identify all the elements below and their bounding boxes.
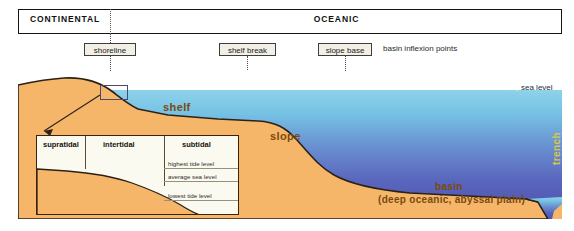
inset-divider-1 bbox=[85, 136, 86, 169]
tidal-zone-inset-panel: supratidal intertidal subtidal highest t… bbox=[36, 135, 239, 215]
tide-line-highest bbox=[164, 168, 238, 169]
inset-zone-supratidal: supratidal bbox=[43, 140, 79, 149]
tide-label-average: average sea level bbox=[168, 173, 217, 180]
inset-divider-2 bbox=[164, 136, 165, 186]
inset-zone-subtidal: subtidal bbox=[182, 140, 211, 149]
diagram-page: CONTINENTAL OCEANIC shoreline shelf brea… bbox=[0, 0, 574, 231]
inset-zone-intertidal: intertidal bbox=[103, 140, 135, 149]
tide-label-highest: highest tide level bbox=[168, 160, 214, 167]
tide-label-lowest: lowest tide level bbox=[168, 192, 212, 199]
tide-line-lowest bbox=[164, 200, 238, 201]
tide-line-average bbox=[164, 181, 238, 182]
